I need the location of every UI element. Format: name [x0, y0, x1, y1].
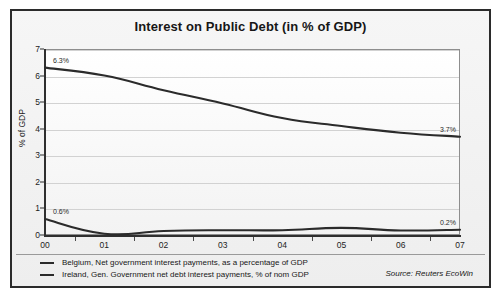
x-tick-label: 03 — [208, 240, 238, 250]
legend-divider — [16, 254, 485, 255]
legend-label: Belgium, Net government interest payment… — [62, 258, 308, 267]
data-point-label: 0.6% — [53, 208, 69, 215]
data-point-label: 0.2% — [440, 219, 456, 226]
legend-item[interactable]: Ireland, Gen. Government net debt intere… — [40, 268, 309, 281]
y-tick-mark — [40, 235, 44, 236]
y-axis-title: % of GDP — [17, 92, 27, 164]
x-tick-mark — [371, 237, 372, 241]
legend-line-icon — [40, 262, 54, 264]
x-tick-label: 01 — [89, 240, 119, 250]
x-tick-label: 02 — [149, 240, 179, 250]
y-tick-label: 0 — [18, 230, 40, 240]
source-note: Source: Reuters EcoWin — [385, 269, 473, 278]
y-tick-label: 7 — [18, 44, 40, 54]
x-tick-mark — [253, 237, 254, 241]
data-point-label: 3.7% — [440, 126, 456, 133]
x-tick-mark — [312, 237, 313, 241]
x-tick-label: 07 — [445, 240, 475, 250]
x-tick-label: 06 — [386, 240, 416, 250]
legend-label: Ireland, Gen. Government net debt intere… — [62, 270, 309, 279]
y-tick-mark — [40, 128, 44, 129]
x-tick-label: 05 — [326, 240, 356, 250]
chart-figure: Interest on Public Debt (in % of GDP) 01… — [10, 9, 491, 288]
x-tick-mark — [193, 237, 194, 241]
y-tick-label: 2 — [18, 177, 40, 187]
y-tick-mark — [40, 102, 44, 103]
y-tick-label: 6 — [18, 71, 40, 81]
x-tick-mark — [134, 237, 135, 241]
y-tick-mark — [40, 75, 44, 76]
y-tick-mark — [40, 155, 44, 156]
series-line — [45, 219, 460, 234]
y-tick-mark — [40, 49, 44, 50]
legend-line-icon — [40, 274, 54, 276]
chart-title: Interest on Public Debt (in % of GDP) — [12, 19, 489, 34]
x-tick-mark — [75, 237, 76, 241]
series-line — [45, 68, 460, 137]
x-tick-label: 00 — [30, 240, 60, 250]
x-tick-label: 04 — [267, 240, 297, 250]
y-tick-label: 1 — [18, 203, 40, 213]
y-tick-mark — [40, 181, 44, 182]
x-tick-mark — [430, 237, 431, 241]
series-lines — [45, 49, 460, 235]
y-tick-mark — [40, 208, 44, 209]
data-point-label: 6.3% — [53, 57, 69, 64]
